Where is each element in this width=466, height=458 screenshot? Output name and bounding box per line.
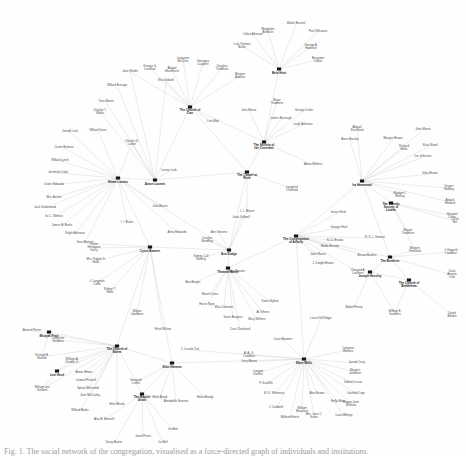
graph-edge [117,247,150,346]
figure-caption: Fig. 1. The social network of the congre… [0,447,466,458]
graph-edge [247,172,292,189]
graph-edge [391,203,415,250]
graph-edge [304,359,338,402]
graph-edge [253,35,279,69]
graph-edge [279,32,318,69]
graph-edge [118,143,132,178]
graph-edge [304,359,356,394]
graph-edge [172,363,205,398]
graph-edge [210,268,228,295]
graph-hub-node[interactable] [227,249,231,252]
graph-hub-node[interactable] [277,68,281,71]
graph-edge [117,346,142,394]
graph-hub-node[interactable] [407,279,411,282]
graph-edge [57,361,72,371]
graph-edge [64,148,118,178]
graph-edge [296,236,375,238]
graph-edge [391,203,455,221]
graph-edge [42,371,57,389]
graph-edge [130,72,155,180]
graph-edge [296,236,367,256]
graph-edge [88,346,117,389]
graph-edge [75,178,118,234]
graph-edge [304,359,351,404]
graph-hub-node[interactable] [302,358,306,361]
graph-edge [172,363,176,402]
graph-edge [114,394,142,443]
graph-edge [296,213,338,236]
graph-edge [229,172,247,250]
graph-hub-node[interactable] [389,202,393,205]
graph-hub-node[interactable] [226,267,230,270]
graph-edge [150,247,172,363]
graph-edge [97,247,150,283]
edges-layer [32,24,455,443]
graph-edge [362,146,430,181]
graph-edge [118,178,155,180]
graph-hub-node[interactable] [388,256,392,259]
graph-edge [395,280,409,313]
graph-edge [296,236,358,272]
graph-edge [155,81,166,180]
graph-hub-node[interactable] [262,141,266,144]
graph-edge [190,107,213,122]
graph-edge [391,203,452,216]
graph-edge [85,178,118,243]
graph-edge [283,340,304,359]
graph-edge [249,111,264,142]
graph-hub-node[interactable] [55,370,59,373]
graph-edge [42,332,49,357]
graph-edge [32,331,117,346]
graph-edge [354,272,370,308]
graph-hub-node[interactable] [245,171,249,174]
graph-edge [85,243,150,247]
graph-hub-node[interactable] [148,246,152,249]
graph-edge [130,72,190,107]
graph-edge [118,178,127,223]
graph-hub-node[interactable] [116,177,120,180]
graph-edge [362,181,450,202]
graph-hub-node[interactable] [115,345,119,348]
graph-edge [54,178,118,198]
graph-edge [201,250,229,258]
graph-edge [166,81,190,107]
graph-edge [100,112,155,180]
graph-edge [132,143,155,180]
graph-edge [264,119,281,142]
graph-hub-node[interactable] [188,106,192,109]
graph-edge [296,181,362,236]
graph-edge [190,63,203,107]
graph-edge [207,240,229,250]
graph-edge [362,130,423,181]
graph-edge [228,236,296,268]
graph-edge [98,131,118,178]
graph-edge [264,69,279,142]
graph-edge [219,233,229,250]
graph-hub-node[interactable] [47,331,51,334]
graph-edge [193,268,228,283]
graph-hub-node[interactable] [368,271,372,274]
graph-edge [264,102,277,142]
graph-hub-node[interactable] [170,362,174,365]
graph-edge [172,359,304,363]
graph-hub-node[interactable] [153,179,157,182]
graph-edge [45,178,118,208]
graph-hub-node[interactable] [140,393,144,396]
graph-edge [228,268,263,313]
graph-edge [150,68,190,107]
graph-edge [150,247,163,330]
graph-edge [190,107,247,172]
graph-edge [142,394,173,430]
graph-hub-node[interactable] [294,235,298,238]
graph-edge [229,212,247,250]
graph-edge [391,203,408,232]
graph-edge [264,142,313,165]
graph-edge [228,268,240,330]
graph-edge [296,236,318,255]
graph-edge [362,148,404,181]
graph-hub-node[interactable] [360,180,364,183]
graph-edge [247,142,264,172]
graph-edge [94,247,150,248]
graph-edge [117,346,172,363]
